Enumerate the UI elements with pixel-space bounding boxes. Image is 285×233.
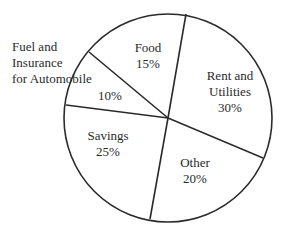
slice-label-other: Other 20% <box>170 155 220 187</box>
slice-name: Fuel and <box>12 39 92 55</box>
slice-label-savings: Savings 25% <box>80 128 136 160</box>
slice-label-food: Food 15% <box>129 40 167 72</box>
slice-name-cont: Insurance <box>12 55 92 71</box>
slice-name-cont: for Automobile <box>12 71 92 87</box>
slice-name: Other <box>170 155 220 171</box>
slice-percent: 30% <box>190 100 270 116</box>
slice-label-rent: Rent and Utilities 30% <box>190 68 270 116</box>
slice-percent-fuel: 10% <box>92 88 128 104</box>
slice-percent: 20% <box>170 171 220 187</box>
slice-name: Savings <box>80 128 136 144</box>
slice-name-cont: Utilities <box>190 84 270 100</box>
slice-percent: 15% <box>129 56 167 72</box>
slice-name: Rent and <box>190 68 270 84</box>
slice-name: Food <box>129 40 167 56</box>
slice-label-fuel: Fuel and Insurance for Automobile <box>12 39 92 87</box>
pie-chart <box>0 0 285 233</box>
slice-percent: 25% <box>80 144 136 160</box>
